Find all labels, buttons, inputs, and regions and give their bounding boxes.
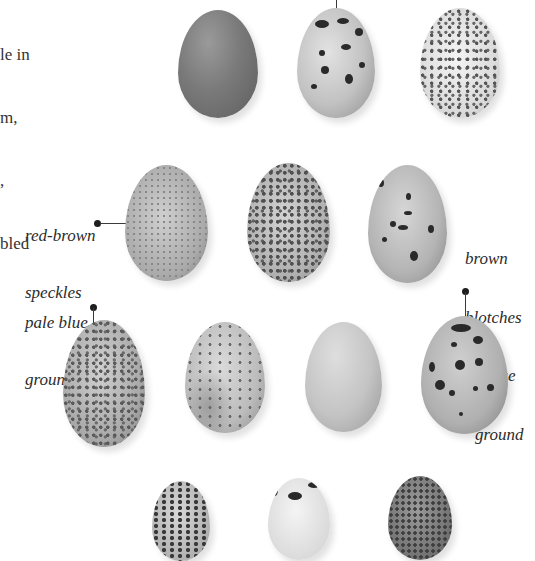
egg-dark-mottled-bottom (388, 476, 452, 560)
egg-plain-pale (305, 322, 382, 432)
egg-pale-blue-speckled (63, 320, 145, 447)
egg-fine-speckles (420, 8, 500, 118)
intro-line: m, (0, 107, 30, 128)
egg-dense-speckles (247, 163, 330, 282)
egg-mottled-pale (185, 322, 265, 433)
egg-bold-blotches (297, 8, 375, 118)
egg-red-brown-speckles (125, 165, 208, 281)
egg-plain-dark (178, 10, 258, 118)
egg-speckled-bottom (152, 481, 210, 561)
intro-line: le in (0, 44, 30, 65)
egg-sparse-blotches (368, 165, 447, 283)
egg-white-blotched-bottom (268, 478, 330, 560)
